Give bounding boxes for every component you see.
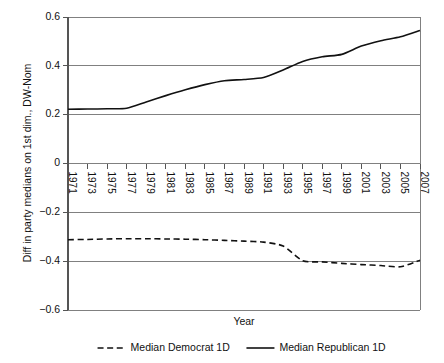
x-tick-label: 1985 — [204, 172, 215, 195]
y-tick-label: 0 — [54, 156, 60, 168]
legend-item[interactable]: Median Democrat 1D — [98, 341, 231, 353]
x-tick-label: 1973 — [86, 172, 97, 195]
y-tick-label: 0.2 — [45, 107, 60, 119]
series-line-median-republican-1d — [68, 30, 420, 109]
x-tick-label: 1989 — [243, 172, 254, 195]
line-chart: 0.60.40.20−0.2−0.4−0.6 19711973197519771… — [0, 0, 444, 363]
x-tick-label: 1983 — [184, 172, 195, 195]
x-axis-title: Year — [233, 315, 255, 327]
x-axis — [68, 164, 420, 169]
x-tick-label: 1991 — [262, 172, 273, 195]
x-tick-label: 2003 — [380, 172, 391, 195]
x-tick-label: 1997 — [321, 172, 332, 195]
y-tick-label: 0.6 — [45, 10, 60, 22]
chart-legend: Median Democrat 1DMedian Republican 1D — [98, 341, 387, 353]
y-tick-label: −0.4 — [39, 254, 60, 266]
series-line-median-democrat-1d — [68, 239, 420, 267]
legend-label: Median Democrat 1D — [131, 341, 231, 353]
x-tick-label: 1995 — [302, 172, 313, 195]
x-tick-label: 2005 — [399, 172, 410, 195]
x-tick-label: 2007 — [419, 172, 430, 195]
legend-label: Median Republican 1D — [279, 341, 386, 353]
y-tick-labels: 0.60.40.20−0.2−0.4−0.6 — [39, 10, 60, 315]
y-tick-label: 0.4 — [45, 59, 60, 71]
x-tick-label: 1977 — [126, 172, 137, 195]
x-tick-label: 2001 — [360, 172, 371, 195]
legend-item[interactable]: Median Republican 1D — [246, 341, 386, 353]
x-tick-label: 1975 — [106, 172, 117, 195]
x-tick-label: 1971 — [67, 172, 78, 195]
chart-figure: 0.60.40.20−0.2−0.4−0.6 19711973197519771… — [0, 0, 444, 363]
y-tick-label: −0.6 — [39, 303, 60, 315]
y-tick-label: −0.2 — [39, 205, 60, 217]
x-tick-label: 1993 — [282, 172, 293, 195]
x-tick-label: 1981 — [165, 172, 176, 195]
x-tick-label: 1999 — [341, 172, 352, 195]
y-axis-title: Diff in party medians on 1st dim., DW-No… — [21, 63, 33, 262]
x-tick-label: 1987 — [223, 172, 234, 195]
y-axis — [63, 17, 68, 310]
x-tick-label: 1979 — [145, 172, 156, 195]
x-tick-labels: 1971197319751977197919811983198519871989… — [67, 172, 430, 195]
